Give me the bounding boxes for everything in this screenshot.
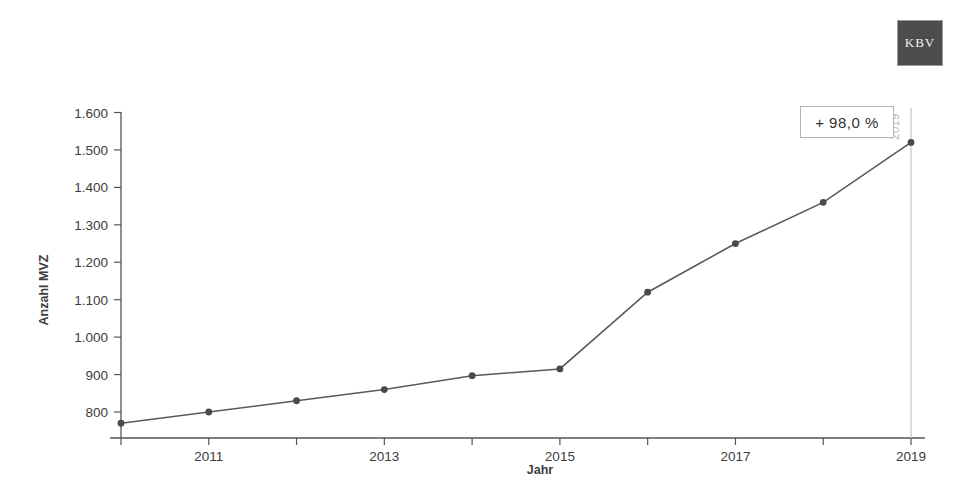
data-point-marker: [381, 386, 388, 393]
data-markers: [118, 139, 915, 427]
data-point-marker: [644, 289, 651, 296]
y-tick-label: 1.100: [74, 293, 108, 308]
y-axis-ticks: 8009001.0001.1001.2001.3001.4001.5001.60…: [74, 106, 121, 421]
x-axis-ticks: 20112013201520172019: [121, 438, 926, 464]
y-tick-label: 800: [85, 405, 108, 420]
line-chart-svg: 8009001.0001.1001.2001.3001.4001.5001.60…: [0, 0, 964, 500]
y-tick-label: 1.400: [74, 180, 108, 195]
data-point-marker: [820, 199, 827, 206]
x-tick-label: 2017: [720, 449, 750, 464]
y-axis-title: Anzahl MVZ: [37, 254, 51, 325]
growth-callout-label: + 98,0 %: [815, 114, 879, 131]
y-tick-label: 900: [85, 368, 108, 383]
data-line: [121, 142, 911, 423]
x-axis-title: Jahr: [527, 463, 554, 477]
y-tick-label: 1.000: [74, 330, 108, 345]
x-tick-label: 2019: [896, 449, 926, 464]
chart-container: KBV 8009001.0001.1001.2001.3001.4001.500…: [0, 0, 964, 500]
x-tick-label: 2013: [369, 449, 399, 464]
data-point-marker: [205, 409, 212, 416]
x-tick-label: 2011: [194, 449, 223, 464]
y-tick-label: 1.200: [74, 255, 108, 270]
data-point-marker: [908, 139, 915, 146]
data-point-marker: [469, 372, 476, 379]
y-tick-label: 1.300: [74, 218, 108, 233]
data-point-marker: [118, 420, 125, 427]
y-tick-label: 1.500: [74, 143, 108, 158]
data-point-marker: [293, 397, 300, 404]
growth-callout-box: + 98,0 %: [800, 106, 894, 138]
data-point-marker: [556, 366, 563, 373]
y-tick-label: 1.600: [74, 106, 108, 121]
x-tick-label: 2015: [545, 449, 575, 464]
data-point-marker: [732, 240, 739, 247]
